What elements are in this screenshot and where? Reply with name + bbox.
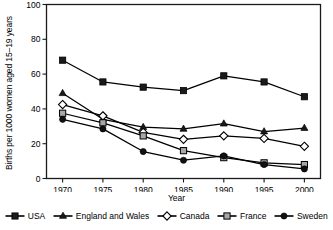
legend-label: Sweden [297,211,328,221]
y-tick-label: 40 [31,104,41,114]
marker-filled-square [100,79,106,85]
x-tick-label: 1975 [93,185,112,193]
chart-legend: USAEngland and WalesCanadaFranceSweden [0,210,333,222]
x-tick-label: 1990 [214,185,233,193]
x-tick-label: 1985 [174,185,193,193]
marker-filled-circle [60,116,66,122]
marker-filled-triangle [220,120,227,126]
legend-item-england-and-wales: England and Wales [53,210,149,222]
x-tick-label: 1980 [134,185,153,193]
marker-gray-square [60,110,66,116]
marker-filled-square [301,94,307,100]
marker-open-diamond [300,142,308,150]
x-axis-label-text: Year [168,193,185,203]
marker-open-diamond [260,134,268,142]
marker-filled-circle [281,213,287,219]
y-tick-label: 0 [36,174,41,184]
legend-item-sweden: Sweden [274,210,327,222]
legend-filled-triangle-icon [53,210,73,222]
legend-filled-square-icon [5,210,25,222]
marker-filled-square [180,88,186,94]
y-tick-label: 20 [31,139,41,149]
marker-filled-circle [261,161,267,167]
marker-filled-square [221,73,227,79]
legend-label: USA [28,211,45,221]
y-tick-label: 100 [26,0,40,10]
x-tick-label: 2000 [295,185,314,193]
marker-filled-circle [180,157,186,163]
legend-label: Canada [180,211,210,221]
marker-filled-square [12,213,18,219]
legend-label: France [240,211,266,221]
marker-open-diamond [220,132,228,140]
legend-filled-circle-icon [274,210,294,222]
marker-filled-circle [100,126,106,132]
chart-figure: Births per 1000 women aged 15–19 years 0… [0,0,333,230]
y-tick-label: 60 [31,69,41,79]
marker-open-diamond [163,212,171,220]
marker-gray-square [224,213,230,219]
plot-area: 0204060801001970197519801985199019952000 [0,0,333,196]
marker-open-diamond [99,112,107,120]
marker-filled-circle [301,166,307,172]
legend-open-diamond-icon [157,210,177,222]
marker-open-diamond [179,135,187,143]
marker-gray-square [140,133,146,139]
marker-filled-square [60,57,66,63]
legend-label: England and Wales [76,211,149,221]
marker-gray-square [100,120,106,126]
x-tick-label: 1970 [53,185,72,193]
legend-gray-square-icon [217,210,237,222]
marker-filled-square [261,79,267,85]
legend-item-usa: USA [5,210,45,222]
legend-item-canada: Canada [157,210,209,222]
marker-filled-circle [221,153,227,159]
marker-filled-circle [140,148,146,154]
chart-svg: 0204060801001970197519801985199019952000 [0,0,333,192]
y-tick-label: 80 [31,34,41,44]
marker-gray-square [180,148,186,154]
series-usa [60,57,308,100]
x-axis-label: Year [0,193,333,203]
marker-open-diamond [59,100,67,108]
marker-filled-triangle [59,89,66,95]
marker-filled-triangle [301,124,308,130]
legend-item-france: France [217,210,266,222]
x-tick-label: 1995 [255,185,274,193]
marker-filled-square [140,84,146,90]
